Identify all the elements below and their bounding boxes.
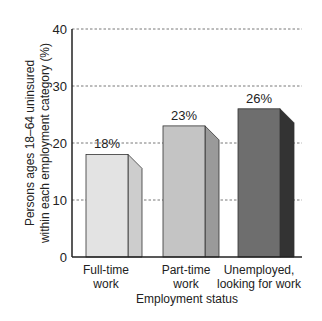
bar-side-face <box>128 154 142 257</box>
x-tick-label: work <box>172 277 199 291</box>
y-axis-label-line-1: Persons ages 18–64 uninsured <box>23 60 37 226</box>
bar-value-label: 18% <box>94 136 120 151</box>
x-tick-label: Unemployed, <box>224 263 295 277</box>
y-tick-labels: 010203040 <box>53 22 67 265</box>
y-tick-label: 40 <box>53 22 67 37</box>
bar-value-label: 26% <box>246 91 272 106</box>
bar-front-face <box>163 126 205 257</box>
x-tick-labels: Full-timeworkPart-timeworkUnemployed,loo… <box>83 263 302 291</box>
bar: 18% <box>86 136 142 257</box>
y-tick-label: 30 <box>53 79 67 94</box>
y-axis-label: Persons ages 18–64 uninsured within each… <box>23 43 52 244</box>
bars: 18%23%26% <box>86 91 294 257</box>
bar-value-label: 23% <box>171 108 197 123</box>
y-axis-label-line-2: within each employment category (%) <box>38 43 52 244</box>
bar: 23% <box>163 108 219 257</box>
bar-side-face <box>280 109 294 257</box>
bar-chart: 18%23%26% 010203040 Full-timeworkPart-ti… <box>0 0 322 321</box>
bar-front-face <box>238 109 280 257</box>
bar-front-face <box>86 154 128 257</box>
x-tick-label: Full-time <box>83 263 129 277</box>
bar-side-face <box>205 126 219 257</box>
bar: 26% <box>238 91 294 257</box>
x-tick-label: Part-time <box>162 263 211 277</box>
x-tick-label: looking for work <box>217 277 302 291</box>
y-tick-label: 20 <box>53 136 67 151</box>
x-tick-label: work <box>92 277 119 291</box>
y-tick-label: 0 <box>60 250 67 265</box>
x-axis-label: Employment status <box>136 292 238 306</box>
y-tick-label: 10 <box>53 193 67 208</box>
